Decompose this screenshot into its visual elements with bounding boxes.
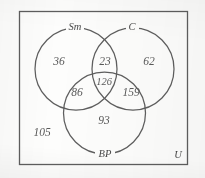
region-count-c-only: 62 (143, 56, 155, 68)
universal-set-rectangle (20, 12, 188, 165)
set-label-c: C (128, 22, 135, 33)
region-count-sm-and-c: 23 (99, 56, 111, 68)
region-count-outside-all: 105 (33, 127, 50, 139)
set-label-bp: BP (99, 149, 112, 160)
region-count-bp-only: 93 (98, 115, 110, 127)
universal-set-label: U (174, 150, 182, 161)
region-count-sm-and-bp: 86 (71, 87, 83, 99)
region-count-c-and-bp: 159 (122, 87, 139, 99)
region-count-sm-only: 36 (53, 56, 65, 68)
set-label-sm: Sm (69, 22, 82, 33)
region-count-all-three: 126 (96, 77, 112, 88)
venn-diagram-figure: Sm C BP U 36 23 62 126 86 159 93 105 (0, 0, 205, 178)
